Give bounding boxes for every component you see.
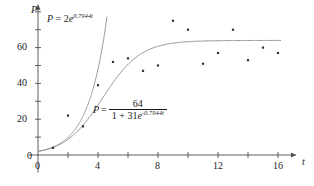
logistic-denominator: 1 + 31e-0.7944t [109,110,167,121]
data-point [247,59,249,61]
data-point [157,64,159,66]
data-point [82,125,84,127]
logistic-equals: = [101,104,107,115]
data-point [202,63,204,65]
x-tick-label-0: 0 [35,160,40,171]
data-point [172,20,174,22]
exponential-model-equation: P = 2e0.7944t [47,13,93,24]
y-tick-label-40: 40 [17,77,27,88]
logistic-lhs: P [93,104,99,115]
data-point [277,52,279,54]
x-tick-label-8: 8 [155,160,160,171]
y-tick-label-0: 0 [27,150,32,161]
data-point [262,47,264,49]
y-tick-label-60: 60 [17,41,27,52]
data-point [187,29,189,31]
exponential-model-curve [38,17,107,152]
data-point [67,115,69,117]
x-tick-label-12: 12 [213,160,223,171]
chart-canvas [0,0,314,186]
exponential-exponent: 0.7944t [73,12,93,19]
logistic-growth-chart: 0 20 40 60 0 4 8 12 16 P t P = 2e0.7944t… [0,0,314,186]
logistic-model-equation: P = 64 1 + 31e-0.7944t [93,98,167,121]
data-point [52,147,54,149]
exponential-lhs: P [47,13,53,24]
y-axis-label: P [31,4,37,15]
logistic-denominator-prefix: 1 + 31 [112,110,138,121]
logistic-fraction: 64 1 + 31e-0.7944t [109,98,167,121]
data-points-group [52,20,279,149]
x-tick-label-4: 4 [95,160,100,171]
model-curves-group [38,17,281,152]
x-axis-arrow [291,152,296,157]
x-axis-label: t [302,156,305,167]
data-point [112,61,114,63]
data-point [142,70,144,72]
data-point [217,52,219,54]
logistic-model-curve [38,40,281,151]
y-tick-label-20: 20 [17,113,27,124]
data-point [232,29,234,31]
exponential-equals: = [56,13,62,24]
axis-ticks-group [35,12,278,158]
logistic-numerator: 64 [130,98,146,109]
x-tick-label-16: 16 [273,160,283,171]
logistic-denominator-exponent: -0.7944t [142,109,164,116]
data-point [127,57,129,59]
data-point [97,84,99,86]
axes-group [29,5,296,173]
